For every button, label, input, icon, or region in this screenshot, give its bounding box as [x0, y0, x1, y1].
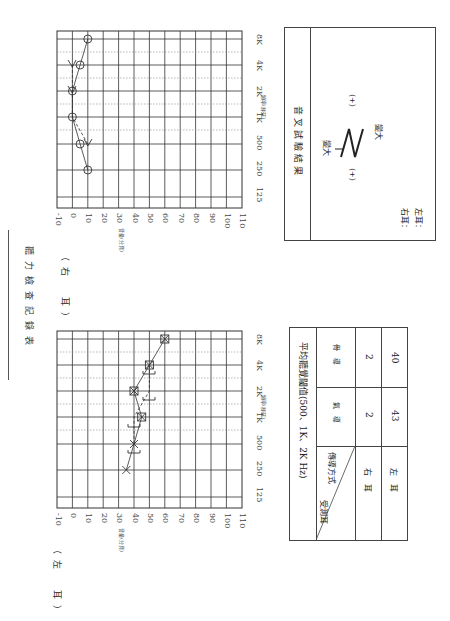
left-ear-result: 左耳：	[414, 208, 425, 232]
col-air: 氣 導	[332, 402, 342, 423]
right-db-ticks: -10 0 10 20 30 40 50 60 70 80 90 100 110	[55, 213, 245, 229]
right-freq-ticks: 8K 4K 2K 1K 500 250 125	[252, 29, 268, 211]
tuning-fork-box: 音叉試驗結果 變大 變大 (+) (+) 右耳： 左耳：	[284, 27, 436, 241]
corner-method: 傳導方式	[327, 452, 338, 484]
row-left-ear: 左 耳	[389, 468, 400, 492]
right-freq-label: 頻率(赫茲)	[261, 95, 268, 119]
tuning-fork-title: 音叉試驗結果	[292, 106, 305, 178]
right-ear-audiogram	[55, 29, 245, 211]
table-title: 平均聽覺閾值(500、1K、2K Hz)	[297, 342, 310, 479]
right-ear-result: 右耳：	[400, 208, 411, 232]
lower-change-label: 變大	[374, 124, 385, 140]
right-ear-label: （右 耳）	[59, 252, 72, 327]
left-ear-audiogram	[55, 329, 245, 511]
upper-change-label: 變大	[322, 140, 333, 156]
left-freq-ticks: 8K 4K 2K 1K 500 250 125	[252, 329, 268, 511]
right-air-value: 2	[364, 412, 374, 418]
document-title: 聽力檢查記錄表	[23, 246, 36, 351]
left-bone-value: 40	[390, 352, 400, 363]
right-bone-value: 2	[364, 354, 374, 360]
left-freq-label: 頻率(赫茲)	[261, 395, 268, 419]
plus-right: (+)	[348, 94, 357, 107]
left-db-ticks: -10 0 10 20 30 40 50 60 70 80 90 100 110	[55, 513, 245, 529]
weber-arrow-icon	[333, 123, 373, 163]
right-db-label: 音量(分貝)	[119, 228, 126, 252]
left-db-label: 音量(分貝)	[119, 528, 126, 552]
col-bone: 骨 導	[332, 344, 342, 365]
left-air-value: 43	[390, 410, 400, 421]
corner-ear: 受測耳	[319, 500, 330, 524]
average-threshold-table: 平均聽覺閾值(500、1K、2K Hz) 傳導方式 受測耳 氣 導 骨 導 右 …	[289, 327, 408, 541]
left-ear-label: （左 耳）	[51, 545, 64, 620]
row-right-ear: 右 耳	[363, 468, 374, 492]
plus-left: (+)	[348, 168, 357, 181]
